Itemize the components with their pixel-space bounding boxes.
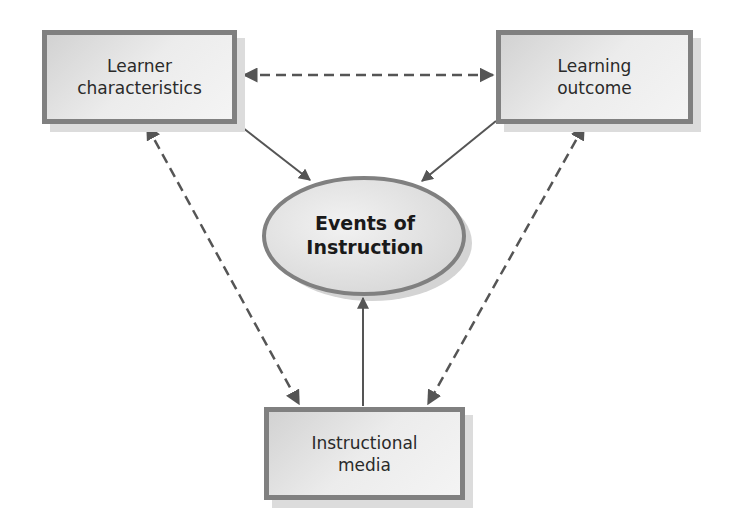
media-label-line2: media <box>338 454 391 476</box>
arrow-outcome-events <box>422 121 496 181</box>
instructional-media-box: Instructional media <box>264 407 465 500</box>
learner-label-line1: Learner <box>107 55 172 77</box>
arrow-learner-events <box>238 124 310 180</box>
diagram-canvas: Learner characteristics Learning outcome… <box>0 0 732 523</box>
events-label-line1: Events of <box>315 211 415 235</box>
media-label-line1: Instructional <box>311 432 417 454</box>
learner-label-line2: characteristics <box>77 77 202 99</box>
events-label-line2: Instruction <box>306 235 423 259</box>
learner-characteristics-box: Learner characteristics <box>42 30 237 124</box>
outcome-label-line1: Learning <box>558 55 632 77</box>
events-of-instruction-label: Events of Instruction <box>265 200 465 270</box>
outcome-label-line2: outcome <box>557 77 632 99</box>
learning-outcome-box: Learning outcome <box>496 30 693 124</box>
